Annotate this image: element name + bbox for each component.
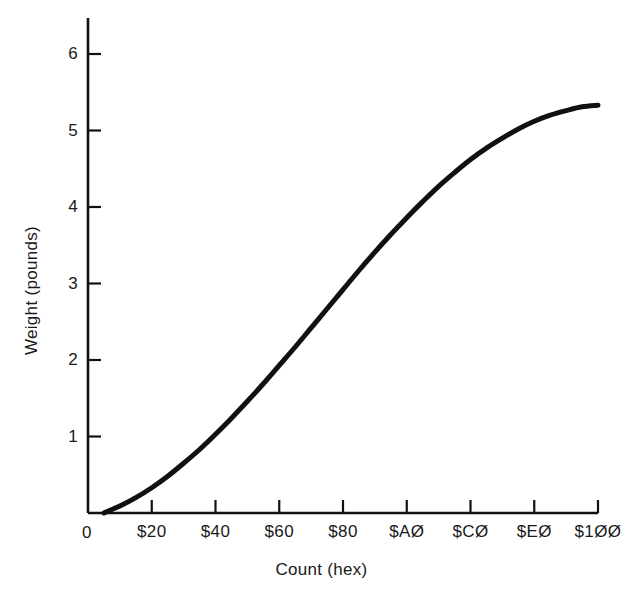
x-axis-tick-label: $20 <box>137 522 167 542</box>
ticks-group <box>88 54 598 513</box>
x-axis-tick-label: $EØ <box>517 522 552 542</box>
data-curve <box>104 105 598 513</box>
chart-figure: 123456 $20$40$60$80$AØ$CØ$EØ$1ØØ 0 Count… <box>0 0 643 601</box>
y-axis-tick-label: 5 <box>50 121 78 141</box>
origin-tick-label: 0 <box>82 523 91 543</box>
axes-group <box>88 18 598 513</box>
y-axis-tick-label: 3 <box>50 274 78 294</box>
y-axis-tick-label: 4 <box>50 197 78 217</box>
x-axis-tick-label: $1ØØ <box>575 522 622 542</box>
x-axis-tick-label: $80 <box>328 522 358 542</box>
x-axis-tick-label: $AØ <box>389 522 424 542</box>
y-axis-tick-label: 2 <box>50 350 78 370</box>
y-axis-tick-label: 6 <box>50 44 78 64</box>
plot-area <box>0 0 643 601</box>
data-curve-group <box>104 105 598 513</box>
y-axis-title-text: Weight (pounds) <box>22 226 42 355</box>
x-axis-tick-label: $40 <box>201 522 231 542</box>
x-axis-tick-label: $60 <box>264 522 294 542</box>
x-axis-title: Count (hex) <box>0 560 643 580</box>
x-axis-tick-label: $CØ <box>452 522 488 542</box>
y-axis-tick-label: 1 <box>50 427 78 447</box>
